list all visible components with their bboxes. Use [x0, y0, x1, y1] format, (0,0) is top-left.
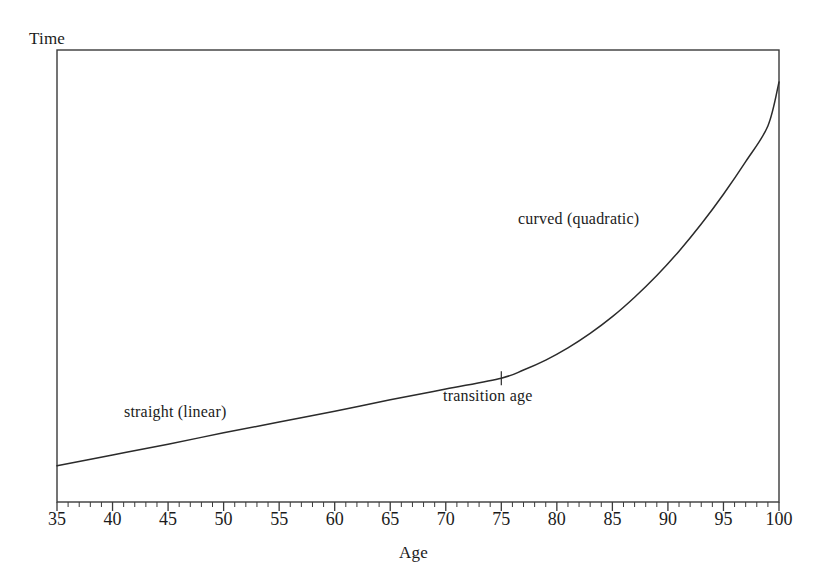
annotation-transition-age: transition age — [443, 387, 532, 405]
x-tick-label: 35 — [48, 509, 66, 530]
x-tick-label: 100 — [766, 509, 793, 530]
chart-figure: Time Age straight (linear) curved (quadr… — [0, 0, 829, 587]
x-tick-label: 95 — [714, 509, 732, 530]
x-tick-label: 55 — [270, 509, 288, 530]
x-tick-label: 65 — [381, 509, 399, 530]
x-tick-label: 80 — [548, 509, 566, 530]
x-tick-label: 75 — [492, 509, 510, 530]
x-axis-minor-ticks — [68, 502, 768, 507]
chart-canvas — [0, 0, 829, 587]
plot-area-frame — [57, 50, 779, 502]
x-tick-label: 45 — [159, 509, 177, 530]
x-tick-label: 40 — [104, 509, 122, 530]
annotation-straight-linear: straight (linear) — [124, 403, 226, 421]
x-tick-label: 50 — [215, 509, 233, 530]
x-tick-label: 70 — [437, 509, 455, 530]
annotation-curved-quadratic: curved (quadratic) — [518, 210, 639, 228]
y-axis-title: Time — [29, 29, 65, 49]
x-axis-title: Age — [399, 543, 428, 563]
x-tick-label: 90 — [659, 509, 677, 530]
x-tick-label: 85 — [603, 509, 621, 530]
x-tick-label: 60 — [326, 509, 344, 530]
